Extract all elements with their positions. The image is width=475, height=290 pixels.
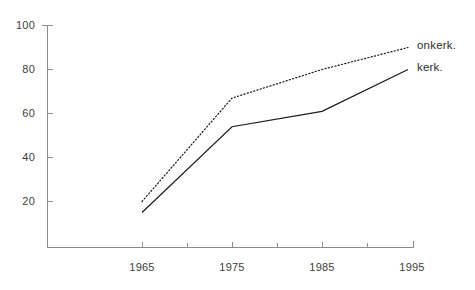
y-tick-marks — [48, 26, 54, 202]
y-tick-label-100: 100 — [5, 19, 35, 31]
x-tick-label-1975: 1975 — [207, 261, 257, 273]
x-tick-marks — [143, 242, 368, 248]
series-line-onkerk — [142, 48, 408, 202]
x-tick-label-1965: 1965 — [117, 261, 167, 273]
y-tick-label-20: 20 — [5, 195, 35, 207]
line-chart: 100 80 60 40 20 1965 1975 1985 1995 onke… — [0, 0, 475, 290]
chart-canvas — [0, 0, 475, 290]
y-tick-label-80: 80 — [5, 63, 35, 75]
series-label-onkerk: onkerk. — [417, 39, 456, 51]
x-tick-label-1995: 1995 — [387, 261, 437, 273]
y-tick-label-40: 40 — [5, 151, 35, 163]
series-label-kerk: kerk. — [417, 61, 443, 73]
series-line-kerk — [142, 70, 408, 213]
y-tick-label-60: 60 — [5, 107, 35, 119]
x-tick-label-1985: 1985 — [297, 261, 347, 273]
